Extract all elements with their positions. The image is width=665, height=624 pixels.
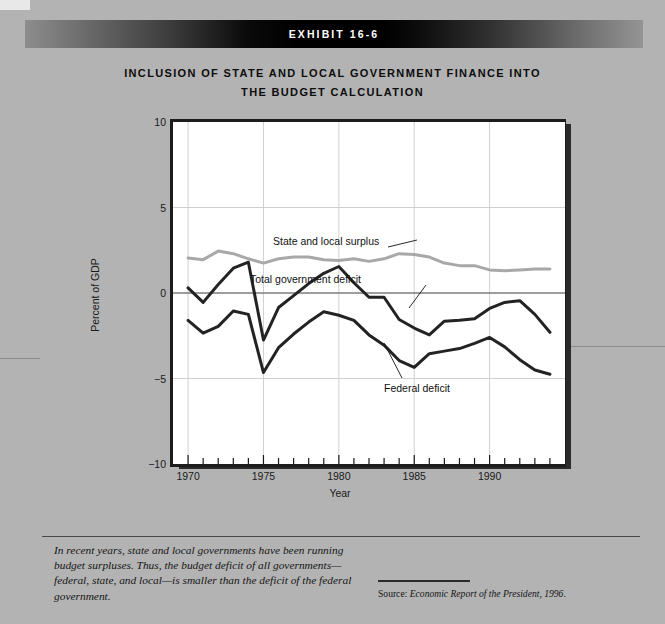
caption-text: In recent years, state and local governm… <box>54 543 362 604</box>
x-tick-label: 1985 <box>403 470 426 482</box>
source-suffix: . <box>563 588 565 599</box>
source-prefix: Source: <box>378 588 410 599</box>
source-divider <box>378 580 470 582</box>
x-tick-label: 1970 <box>176 470 199 482</box>
x-axis-title: Year <box>0 487 665 499</box>
caption-divider <box>42 536 640 537</box>
source-note: Source: Economic Report of the President… <box>378 588 628 599</box>
x-tick-label: 1990 <box>478 470 501 482</box>
y-axis-title: Percent of GDP <box>89 258 101 332</box>
source-publication: Economic Report of the President, 1996 <box>410 588 564 599</box>
x-tick-label: 1980 <box>327 470 350 482</box>
x-tick-label: 1975 <box>252 470 275 482</box>
